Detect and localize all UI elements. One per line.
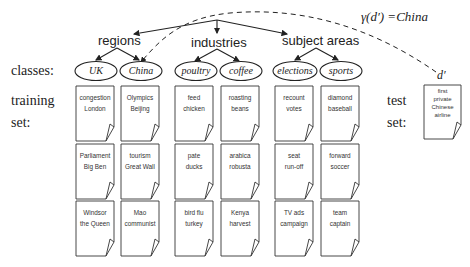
training-doc: teamcaptain (321, 201, 359, 256)
text-classification-diagram: regions industries subject areas UK Chin… (0, 0, 470, 267)
class-china: China (120, 63, 162, 78)
training-doc: arabicarobusta (221, 144, 259, 199)
training-doc: recountvotes (275, 86, 313, 141)
training-doc: feedchicken (175, 86, 213, 141)
training-doc: Windsorthe Queen (76, 201, 114, 256)
training-doc: bird fluturkey (175, 201, 213, 256)
category-industries: industries (191, 35, 247, 50)
class-sports: sports (320, 63, 362, 78)
training-doc: OlympicsBeijing (121, 86, 159, 141)
training-doc: tourismGreat Wall (121, 144, 159, 199)
class-uk: UK (75, 63, 117, 78)
training-doc: diamondbaseball (321, 86, 359, 141)
class-elections: elections (273, 63, 317, 78)
test-doc: first private Chinese airline (424, 85, 461, 140)
category-subject-areas: subject areas (282, 33, 359, 48)
category-regions: regions (98, 33, 141, 48)
class-coffee: coffee (220, 63, 262, 78)
training-label: training (11, 93, 55, 109)
training-doc: TV adscampaign (275, 201, 313, 256)
test-doc-label: d′ (437, 68, 446, 83)
training-doc: pateducks (175, 144, 213, 199)
training-set-label: set: (11, 115, 30, 131)
training-doc: ParliamentBig Ben (76, 144, 114, 199)
training-doc: forwardsoccer (321, 144, 359, 199)
training-doc: Maocommunist (121, 201, 159, 256)
test-label: test (387, 93, 406, 109)
test-set-label: set: (387, 115, 406, 131)
training-doc: Kenyaharvest (221, 201, 259, 256)
gamma-formula: γ(d′) =China (361, 9, 428, 25)
training-doc: roastingbeans (221, 86, 259, 141)
classes-label: classes: (11, 63, 54, 79)
class-poultry: poultry (175, 63, 217, 78)
training-doc: congestionLondon (76, 86, 114, 141)
training-doc: seatrun-off (275, 144, 313, 199)
